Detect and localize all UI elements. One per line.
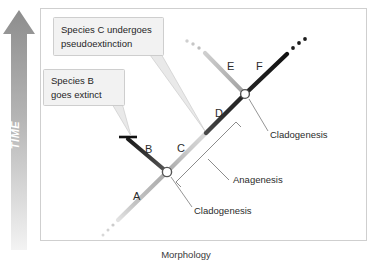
branch-E-label: E — [227, 60, 234, 72]
cladogenesis-node-upper — [241, 90, 250, 99]
branch-A-dot — [107, 229, 110, 232]
branch-F-dot — [297, 41, 301, 45]
branch-F-dot — [291, 46, 295, 50]
branch-E-dot — [197, 46, 200, 49]
branch-D-label: D — [215, 107, 223, 119]
evolution-diagram: TIME A B C D — [0, 0, 371, 260]
time-axis-arrow: TIME — [3, 10, 35, 250]
anagenesis-label: Anagenesis — [233, 174, 283, 185]
species-b-callout-line1: Species B — [51, 75, 94, 86]
branch-F-dot — [303, 37, 307, 41]
species-c-callout-line2: pseudoextinction — [61, 38, 132, 49]
branch-A-dot — [111, 223, 114, 226]
branch-E-dot — [185, 39, 188, 42]
branch-C-label: C — [177, 142, 185, 154]
branch-A-label: A — [133, 190, 141, 202]
cladogenesis-node-lower — [162, 167, 171, 176]
branch-E-dot — [191, 42, 194, 45]
branch-A-dot — [102, 234, 105, 237]
species-c-callout-line1: Species C undergoes — [61, 24, 152, 35]
figure-root: TIME A B C D — [0, 0, 371, 260]
branch-F-label: F — [256, 60, 263, 72]
branch-B-label: B — [145, 143, 152, 155]
morphology-axis-label: Morphology — [161, 249, 211, 260]
species-b-callout-line2: goes extinct — [51, 89, 102, 100]
time-axis-label: TIME — [9, 121, 21, 149]
cladogenesis-lower-label: Cladogenesis — [194, 205, 252, 216]
cladogenesis-upper-label: Cladogenesis — [270, 129, 328, 140]
